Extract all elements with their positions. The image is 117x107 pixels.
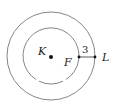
inner-circle-bottom-arc — [39, 81, 63, 84]
center-point-k — [49, 55, 53, 59]
label-k: K — [37, 45, 47, 58]
point-l — [94, 56, 97, 59]
point-f — [78, 56, 81, 59]
concentric-circles-diagram: K F 3 L — [0, 0, 117, 107]
label-l: L — [101, 51, 109, 64]
inner-circle-main-arc — [23, 28, 79, 80]
label-segment-length: 3 — [82, 44, 88, 55]
label-f: F — [63, 56, 72, 69]
